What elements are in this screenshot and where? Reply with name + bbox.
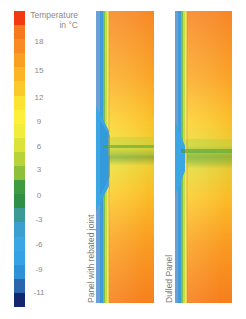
panel-label-rebated: Panel with rebated joint — [86, 215, 96, 303]
color-scale-segment — [14, 96, 25, 110]
color-scale-segment — [14, 53, 25, 67]
color-scale-segment — [14, 180, 25, 194]
color-scale-segment — [14, 237, 25, 251]
color-scale-bar — [14, 11, 25, 307]
color-scale-segment — [14, 25, 25, 39]
color-scale-segment — [14, 279, 25, 293]
color-scale-segment — [14, 251, 25, 265]
legend-tick-label: 3 — [28, 165, 50, 174]
thermal-map-rebated — [96, 11, 154, 303]
panel-label-dulled: Dulled Panel — [164, 255, 174, 303]
color-scale-segment — [14, 265, 25, 279]
color-scale-segment — [14, 110, 25, 124]
color-scale-segment — [14, 124, 25, 138]
legend-tick-label: 12 — [28, 93, 50, 102]
panel-dulled — [175, 11, 232, 303]
legend-tick-label: -6 — [28, 240, 50, 249]
color-scale-segment — [14, 39, 25, 53]
color-scale-segment — [14, 67, 25, 81]
legend-tick-label: -9 — [28, 265, 50, 274]
color-scale-segment — [14, 194, 25, 208]
legend-tick-label: 6 — [28, 142, 50, 151]
legend-tick-label: -3 — [28, 215, 50, 224]
color-scale-segment — [14, 166, 25, 180]
panel-rebated-joint — [96, 11, 154, 303]
color-scale-segment — [14, 222, 25, 236]
legend-tick-label: 15 — [28, 66, 50, 75]
color-scale-segment — [14, 208, 25, 222]
color-scale-segment — [14, 11, 25, 25]
legend-tick-label: -11 — [28, 288, 50, 297]
legend-title: Temperature in °C — [30, 10, 78, 30]
thermal-map-dulled — [175, 11, 232, 303]
color-scale-segment — [14, 152, 25, 166]
legend-tick-label: 18 — [28, 37, 50, 46]
color-scale-segment — [14, 138, 25, 152]
legend-tick-label: 0 — [28, 191, 50, 200]
color-scale-segment — [14, 81, 25, 95]
legend-tick-label: 9 — [28, 117, 50, 126]
color-scale-segment — [14, 293, 25, 307]
